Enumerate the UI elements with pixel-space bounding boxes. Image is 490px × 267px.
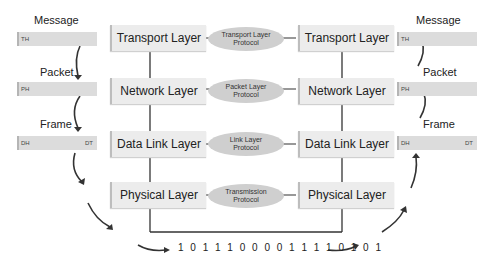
right-frame-label: Frame <box>423 118 455 130</box>
packet-protocol-ellipse: Packet LayerProtocol <box>208 79 284 103</box>
transport-protocol-ellipse: Transport LayerProtocol <box>208 27 284 51</box>
protocol-line1: Transmission <box>225 188 266 196</box>
protocol-line1: Transport Layer <box>221 31 270 39</box>
left-network-layer: Network Layer <box>110 78 206 104</box>
left-data-link-layer: Data Link Layer <box>110 131 206 157</box>
protocol-line2: Protocol <box>226 91 267 99</box>
protocol-line1: Packet Layer <box>226 83 267 91</box>
right-ph-header: PH <box>401 86 409 92</box>
left-dt-trailer: DT <box>85 140 93 146</box>
right-message-packet: TH <box>397 32 477 46</box>
right-network-layer: Network Layer <box>298 78 394 104</box>
left-message-label: Message <box>34 14 79 26</box>
left-dh-header: DH <box>21 140 30 146</box>
link-protocol-ellipse: Link LayerProtocol <box>208 132 284 156</box>
protocol-line1: Link Layer <box>230 136 262 144</box>
left-physical-layer: Physical Layer <box>110 182 206 208</box>
left-th-header: TH <box>21 36 29 42</box>
right-data-link-layer: Data Link Layer <box>298 131 394 157</box>
protocol-line2: Protocol <box>225 196 266 204</box>
left-transport-layer: Transport Layer <box>110 25 206 51</box>
protocol-line2: Protocol <box>221 39 270 47</box>
right-frame-packet: DH DT <box>397 136 477 150</box>
left-ph-header: PH <box>21 86 29 92</box>
left-packet-label: Packet <box>40 66 74 78</box>
right-th-header: TH <box>401 36 409 42</box>
right-dt-trailer: DT <box>465 140 473 146</box>
right-packet-label: Packet <box>423 66 457 78</box>
protocol-line2: Protocol <box>230 144 262 152</box>
bitstream: 1 0 1 1 1 0 0 0 0 1 1 1 1 0 1 0 1 <box>178 242 383 253</box>
right-dh-header: DH <box>401 140 410 146</box>
left-frame-packet: DH DT <box>17 136 97 150</box>
left-frame-label: Frame <box>40 118 72 130</box>
right-message-label: Message <box>416 14 461 26</box>
left-message-packet: TH <box>17 32 97 46</box>
left-packet-packet: PH <box>17 82 97 96</box>
right-packet-packet: PH <box>397 82 477 96</box>
transmission-protocol-ellipse: TransmissionProtocol <box>208 184 284 208</box>
right-physical-layer: Physical Layer <box>298 182 394 208</box>
right-transport-layer: Transport Layer <box>298 25 394 51</box>
